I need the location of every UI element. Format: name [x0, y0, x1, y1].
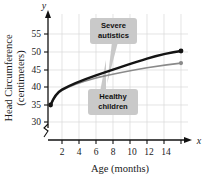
x-tick-label: 14	[161, 147, 171, 157]
y-tick-label: 30	[32, 117, 42, 127]
severe-autistics-label-line2: autistics	[98, 31, 129, 40]
head-circumference-chart: 30 35 40 45 50 55 2 4 6 8 10 12 14 y x A…	[0, 0, 207, 179]
y-tick-label: 55	[32, 29, 42, 39]
severe-autistics-label-line1: Severe	[101, 21, 126, 30]
healthy-children-label-line1: Healthy	[99, 92, 127, 101]
severe-autistics-end-marker	[179, 49, 184, 54]
y-tick-label: 35	[32, 100, 42, 110]
x-tick-label: 4	[77, 147, 82, 157]
x-tick-label: 12	[144, 147, 154, 157]
y-axis-variable-label: y	[41, 0, 47, 11]
healthy-children-label-line2: children	[98, 102, 128, 111]
x-tick-label: 8	[111, 147, 116, 157]
callout-severe-autistics[interactable]: Severe autistics	[90, 18, 137, 44]
x-axis-variable-label: x	[196, 135, 202, 146]
x-tick-label: 10	[127, 147, 137, 157]
x-tick-label: 2	[60, 147, 65, 157]
y-tick-label: 45	[32, 65, 42, 75]
y-tick-label: 40	[32, 82, 42, 92]
healthy-children-end-marker	[179, 61, 183, 65]
x-tick-label: 6	[94, 147, 99, 157]
y-axis-title-line1: Head Circumference	[3, 34, 14, 121]
curve-start-marker	[48, 103, 53, 108]
y-axis-title-line2: (centimeters)	[15, 50, 27, 106]
x-axis-title: Age (months)	[91, 163, 150, 175]
callout-healthy-children[interactable]: Healthy children	[88, 89, 138, 115]
y-tick-label: 50	[32, 47, 42, 57]
